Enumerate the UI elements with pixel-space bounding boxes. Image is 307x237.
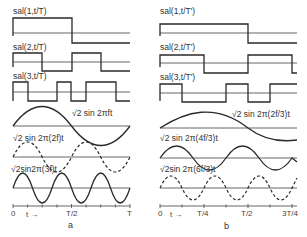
tick-0-a: 0 xyxy=(11,209,16,218)
waveform-sal1-a xyxy=(13,18,130,43)
tick-end-b: 3T/4 xyxy=(282,209,299,218)
tick-quarter-b: T/4 xyxy=(197,209,209,218)
waveform-sal3-a xyxy=(13,82,130,101)
tick-half-a: T/2 xyxy=(66,209,78,218)
tick-t-arrow-a: t → xyxy=(26,210,38,219)
panel-caption-a: a xyxy=(68,220,73,230)
label-sal2-a: sal(2,t/T) xyxy=(13,42,47,52)
label-sin1-a: √2 sin 2πft xyxy=(72,108,113,118)
label-sin3-a: √2sin2π(3f)t xyxy=(11,164,58,174)
waveform-sal2-b xyxy=(160,55,297,73)
label-sin2-b: √2 sin 2π(4f/3)t xyxy=(160,133,218,143)
tick-end-a: T xyxy=(127,209,132,218)
tick-half-b: T/2 xyxy=(241,209,253,218)
label-sal2-b: sal(2,t/T') xyxy=(160,42,195,52)
panel-caption-b: b xyxy=(224,221,229,231)
label-sin1-b: √2 sin 2π(2f/3)t xyxy=(232,109,290,119)
label-sal1-b: sal(1,t/T') xyxy=(160,6,195,16)
label-sal1-a: sal(1,t/T) xyxy=(13,6,47,16)
label-sin2-a: √2 sin 2π(2f)t xyxy=(13,133,64,143)
label-sal3-b: sal(3,t/T') xyxy=(160,72,195,82)
panel-a: sal(1,t/T) sal(2,t/T) sal(3,t/T) √2 sin … xyxy=(11,6,132,230)
label-sin3-b: √2sin 2π(6f/3)t xyxy=(160,164,216,174)
walsh-sine-diagram: sal(1,t/T) sal(2,t/T) sal(3,t/T) √2 sin … xyxy=(0,0,307,237)
label-sal3-a: sal(3,t/T) xyxy=(13,71,47,81)
tick-0-b: 0 xyxy=(158,209,163,218)
panel-b: sal(1,t/T') sal(2,t/T') sal(3,t/T') √2 s… xyxy=(158,6,299,231)
tick-t-arrow-b: t → xyxy=(170,210,182,219)
waveform-sal1-b xyxy=(160,24,297,43)
